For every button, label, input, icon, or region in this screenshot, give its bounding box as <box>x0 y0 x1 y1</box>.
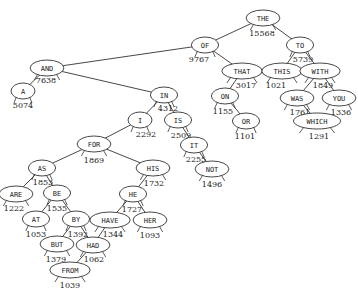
node-frequency: 5739 <box>293 55 313 64</box>
node-frequency: 1291 <box>309 132 329 141</box>
tree-node-to: TO5739 <box>286 37 313 64</box>
tree-node-and: AND7638 <box>30 60 64 85</box>
node-frequency: 9767 <box>189 55 209 64</box>
tree-node-had: HAD1062 <box>76 237 110 264</box>
node-word: FROM <box>62 267 79 275</box>
tree-node-with: WITH1849 <box>300 63 340 90</box>
tree-node-from: FROM1039 <box>50 262 90 290</box>
node-word: THAT <box>234 68 252 76</box>
node-frequency: 2292 <box>136 130 156 139</box>
tree-node-for: FOR1869 <box>77 136 111 165</box>
tree-node-that: THAT3017 <box>222 63 262 90</box>
node-word: ARE <box>10 191 23 199</box>
node-frequency: 1732 <box>144 179 164 188</box>
node-word: I <box>138 117 142 125</box>
node-word: NOT <box>206 166 219 174</box>
node-frequency: 1849 <box>313 81 333 90</box>
tree-node-in: IN4312 <box>150 87 178 113</box>
tree-node-are: ARE1222 <box>0 186 33 213</box>
node-word: TO <box>296 42 304 50</box>
node-word: FOR <box>88 141 101 149</box>
tree-node-which: WHICH1291 <box>294 113 341 141</box>
tree-node-a: A5074 <box>11 83 35 110</box>
tree-node-but: BUT1379 <box>40 236 74 264</box>
node-frequency: 1869 <box>84 156 104 165</box>
node-word: YOU <box>333 95 346 103</box>
node-word: AT <box>32 216 41 224</box>
node-word: BY <box>72 216 81 224</box>
tree-node-the: THE15568 <box>246 10 280 38</box>
tree-node-he: HE1727 <box>119 186 146 214</box>
node-frequency: 1039 <box>60 281 80 290</box>
node-frequency: 1222 <box>4 204 24 213</box>
node-word: WITH <box>312 68 329 76</box>
tree-node-or: OR1101 <box>232 113 259 141</box>
node-frequency: 1062 <box>84 255 104 264</box>
tree-node-at: AT1053 <box>22 211 49 239</box>
node-frequency: 1535 <box>47 204 67 213</box>
node-word: BE <box>53 190 61 198</box>
node-word: WHICH <box>306 118 327 126</box>
tree-node-have: HAVE1344 <box>90 212 130 239</box>
node-word: OR <box>242 118 251 126</box>
node-word: THE <box>257 15 270 23</box>
node-word: ON <box>221 93 229 101</box>
edge-and-in <box>47 68 164 95</box>
node-frequency: 1053 <box>26 230 46 239</box>
tree-node-this: THIS1021 <box>262 63 302 90</box>
node-frequency: 1727 <box>122 205 142 214</box>
tree-node-her: HER1093 <box>133 212 167 240</box>
edge-of-and <box>47 45 205 68</box>
node-word: AND <box>41 65 54 73</box>
node-word: HAD <box>87 242 100 250</box>
node-word: IS <box>174 117 182 125</box>
tree-nodes: THE15568OF9767TO5739AND7638THAT3017THIS1… <box>0 10 356 290</box>
tree-node-on: ON1155 <box>211 88 238 116</box>
tree-node-it: IT2255 <box>180 137 207 164</box>
tree-node-of: OF9767 <box>189 37 219 64</box>
node-word: HAVE <box>102 217 119 225</box>
node-frequency: 5074 <box>13 101 33 110</box>
node-frequency: 1344 <box>103 230 123 239</box>
tree-node-was: WAS1761 <box>280 90 314 117</box>
node-frequency: 1496 <box>202 180 222 189</box>
node-frequency: 3017 <box>236 81 256 90</box>
node-frequency: 1021 <box>266 81 286 90</box>
tree-node-i: I2292 <box>128 112 156 139</box>
node-word: OF <box>201 42 209 50</box>
tree-node-is: IS2509 <box>164 112 191 140</box>
node-frequency: 1093 <box>140 231 160 240</box>
tree-node-as: AS1853 <box>28 160 55 187</box>
node-frequency: 1155 <box>213 107 233 116</box>
node-word: IN <box>160 92 168 100</box>
node-frequency: 1101 <box>235 132 255 141</box>
tree-node-not: NOT1496 <box>195 161 229 189</box>
node-word: THIS <box>274 68 291 76</box>
node-word: HIS <box>147 165 160 173</box>
node-word: BUT <box>51 241 64 249</box>
tree-node-you: YOU1336 <box>322 90 356 117</box>
tree-node-be: BE1535 <box>43 185 70 213</box>
bst-diagram: THE15568OF9767TO5739AND7638THAT3017THIS1… <box>0 0 358 294</box>
node-word: WAS <box>291 95 304 103</box>
node-word: IT <box>190 142 199 150</box>
node-frequency: 7638 <box>36 76 56 85</box>
node-word: HE <box>129 191 137 199</box>
node-word: HER <box>144 217 157 225</box>
node-frequency: 4312 <box>158 104 178 113</box>
tree-node-by: BY1392 <box>62 211 89 239</box>
node-word: AS <box>38 165 46 173</box>
node-frequency: 15568 <box>249 29 274 38</box>
